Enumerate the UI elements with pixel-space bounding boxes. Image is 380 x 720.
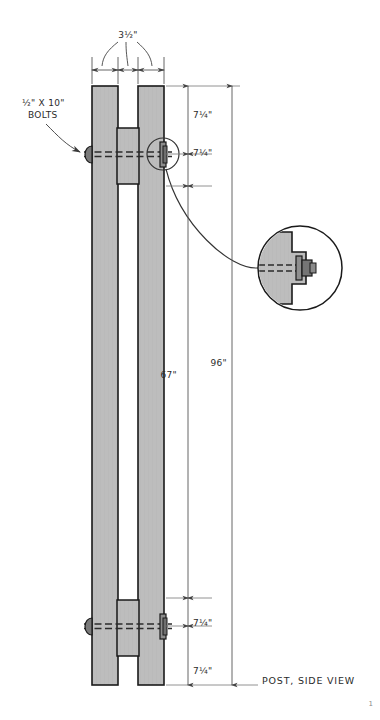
right-post-body xyxy=(138,86,164,685)
left-post-body xyxy=(92,86,118,685)
dim-label-overall: 96" xyxy=(211,358,228,368)
lower-bolt-nut xyxy=(163,618,167,635)
dim-label-top-second: 7¼" xyxy=(193,148,213,158)
post-side-view-drawing: 3½" ½" X 10" BOLTS 7¼" 7¼" 67" 7¼" 7¼" xyxy=(0,0,380,720)
width-dimension-label: 3½" xyxy=(118,30,138,40)
upper-bolt-nut xyxy=(163,146,167,163)
detail-bolt-washer xyxy=(296,256,302,280)
dim-label-bottom-first: 7¼" xyxy=(193,618,213,628)
right-post xyxy=(138,86,164,685)
canvas-background xyxy=(0,0,380,720)
dim-label-bottom-second: 7¼" xyxy=(193,666,213,676)
dim-label-top-first: 7¼" xyxy=(193,110,213,120)
drawing-caption: POST, SIDE VIEW xyxy=(262,675,355,686)
left-post xyxy=(92,86,118,685)
detail-bolt-end xyxy=(310,263,316,273)
corner-mark: 1 xyxy=(369,700,373,708)
bolts-label-line2: BOLTS xyxy=(28,110,58,120)
bolts-label-line1: ½" X 10" xyxy=(22,98,65,108)
dim-label-middle-inner: 67" xyxy=(161,370,178,380)
